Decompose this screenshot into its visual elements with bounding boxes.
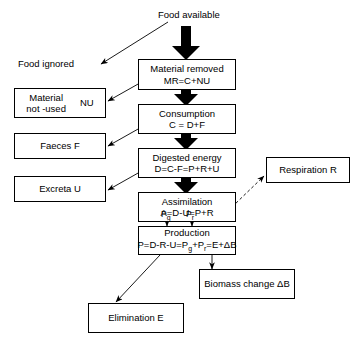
material-not-used-row: Material not -used NU xyxy=(15,92,105,115)
biomass-change-label: Biomass change ΔB xyxy=(204,278,290,290)
thick-arrow-food-to-material-removed xyxy=(172,26,200,60)
consumption-line1: Consumption xyxy=(159,108,215,120)
edge-assimilation-to-respiration xyxy=(232,176,264,207)
box-faeces: Faeces F xyxy=(14,133,106,159)
flow-label-pr: Pr xyxy=(186,209,194,221)
box-biomass-change: Biomass change ΔB xyxy=(199,269,295,299)
production-formula-pre: P=D-R-U=P xyxy=(138,239,189,250)
box-material-removed: Material removed MR=C+NU xyxy=(138,59,236,90)
material-removed-line2: MR=C+NU xyxy=(164,75,210,87)
production-line2: P=D-R-U=Pg+Pr=E+ΔB xyxy=(138,239,237,254)
material-not-used-line2: not -used xyxy=(26,103,66,115)
material-not-used-text: Material not -used xyxy=(26,92,66,115)
consumption-line2: C = D+F xyxy=(169,119,205,131)
production-formula-post: =E+ΔB xyxy=(206,239,236,250)
flow-label-pg: Pg xyxy=(161,209,171,221)
box-digested-energy: Digested energy D=C-F=P+R+U xyxy=(138,148,236,178)
production-formula-mid: +P xyxy=(192,239,204,250)
digested-energy-line1: Digested energy xyxy=(152,152,221,164)
material-not-used-symbol: NU xyxy=(80,97,94,109)
box-respiration: Respiration R xyxy=(266,157,350,183)
edge-production-to-elimination xyxy=(116,255,160,302)
food-ignored-label: Food ignored xyxy=(18,58,74,70)
energy-flow-diagram: Food available Food ignored Material not… xyxy=(0,0,355,341)
respiration-label: Respiration R xyxy=(279,164,337,176)
excreta-label: Excreta U xyxy=(39,183,81,195)
digested-energy-line2: D=C-F=P+R+U xyxy=(155,163,220,175)
elimination-label: Elimination E xyxy=(108,312,163,324)
material-not-used-line1: Material xyxy=(29,92,63,104)
food-available-label: Food available xyxy=(158,9,220,21)
box-elimination: Elimination E xyxy=(88,303,184,333)
production-line1: Production xyxy=(164,227,209,239)
flow-label-pg-sub: g xyxy=(167,214,171,221)
box-material-not-used: Material not -used NU xyxy=(14,88,106,118)
faeces-label: Faeces F xyxy=(40,140,80,152)
box-production: Production P=D-R-U=Pg+Pr=E+ΔB xyxy=(138,226,236,255)
assimilation-line1: Assimilation xyxy=(162,196,213,208)
flow-label-pr-sub: r xyxy=(192,214,194,221)
material-removed-line1: Material removed xyxy=(150,63,223,75)
box-consumption: Consumption C = D+F xyxy=(138,104,236,134)
edge-food-available-to-food-ignored xyxy=(101,22,168,64)
box-excreta: Excreta U xyxy=(14,176,106,202)
